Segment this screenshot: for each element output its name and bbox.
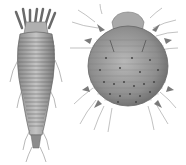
illustration [0,0,186,165]
round-mite [70,4,178,132]
elongated-mite [10,9,62,162]
